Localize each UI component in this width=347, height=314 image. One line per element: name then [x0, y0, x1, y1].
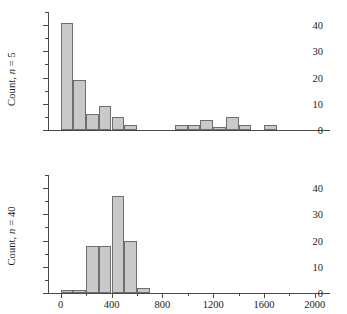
histogram-bar	[124, 125, 137, 130]
histogram-bar	[73, 290, 86, 293]
y-axis-label-bottom-prefix: Count,	[6, 233, 17, 265]
histogram-bar	[112, 196, 125, 293]
histogram-bar	[175, 125, 188, 130]
histogram-bar	[188, 125, 201, 130]
x-tick-major	[61, 293, 62, 298]
histogram-figure: Count, n = 5 010203040 Count, n = 40 010…	[0, 0, 347, 314]
x-tick-minor	[239, 293, 240, 296]
y-tick-label: 10	[313, 98, 324, 109]
y-axis-label-bottom: Count, n = 40	[6, 181, 17, 291]
y-axis-label-top-italic: n	[6, 68, 17, 73]
y-tick-label: 20	[313, 235, 324, 246]
y-tick-major	[43, 267, 48, 268]
y-tick-label: 0	[318, 288, 323, 299]
x-tick-minor	[86, 293, 87, 296]
x-tick-major	[162, 293, 163, 298]
y-tick-major	[43, 241, 48, 242]
histogram-bar	[200, 120, 213, 130]
x-tick-major	[213, 293, 214, 298]
plot-area-top: 010203040	[48, 12, 330, 130]
y-tick-major	[43, 25, 48, 26]
y-tick-minor	[45, 38, 48, 39]
plot-area-bottom: 0102030400400800120016002000	[48, 175, 330, 293]
histogram-bar	[61, 290, 74, 293]
y-axis-line	[48, 175, 49, 293]
y-tick-minor	[45, 91, 48, 92]
y-tick-major	[43, 130, 48, 131]
y-tick-major	[43, 78, 48, 79]
y-tick-label: 10	[313, 261, 324, 272]
histogram-bar	[213, 127, 226, 130]
x-tick-minor	[137, 293, 138, 296]
histogram-bar	[99, 246, 112, 293]
y-tick-minor	[45, 64, 48, 65]
y-tick-major	[43, 51, 48, 52]
y-tick-label: 40	[313, 20, 324, 31]
histogram-bar	[264, 125, 277, 130]
y-tick-label: 30	[313, 209, 324, 220]
x-tick-major	[315, 293, 316, 298]
panel-top: Count, n = 5 010203040	[0, 0, 347, 157]
histogram-bar	[124, 241, 137, 293]
y-tick-label: 0	[318, 125, 323, 136]
y-axis-label-top-prefix: Count,	[6, 74, 17, 106]
x-tick-label: 1600	[253, 299, 274, 310]
x-tick-minor	[289, 293, 290, 296]
y-axis-label-top-suffix: = 5	[6, 52, 17, 69]
x-tick-major	[264, 293, 265, 298]
y-tick-minor	[45, 280, 48, 281]
y-tick-label: 30	[313, 46, 324, 57]
y-axis-line	[48, 12, 49, 130]
histogram-bar	[61, 23, 74, 131]
histogram-bar	[86, 114, 99, 130]
x-tick-major	[112, 293, 113, 298]
x-tick-label: 1200	[203, 299, 224, 310]
histogram-bar	[112, 117, 125, 130]
histogram-bar	[137, 288, 150, 293]
histogram-bar	[226, 117, 239, 130]
y-axis-label-bottom-suffix: = 40	[6, 206, 17, 228]
y-tick-minor	[45, 175, 48, 176]
y-tick-minor	[45, 254, 48, 255]
y-tick-minor	[45, 117, 48, 118]
histogram-bar	[86, 246, 99, 293]
y-tick-minor	[45, 227, 48, 228]
histogram-bar	[239, 125, 252, 130]
y-axis-label-top: Count, n = 5	[6, 24, 17, 134]
y-tick-major	[43, 214, 48, 215]
x-tick-label: 800	[154, 299, 170, 310]
y-tick-minor	[45, 201, 48, 202]
y-tick-label: 20	[313, 72, 324, 83]
x-tick-minor	[188, 293, 189, 296]
histogram-bar	[73, 80, 86, 130]
histogram-bar	[99, 106, 112, 130]
y-tick-minor	[45, 12, 48, 13]
y-tick-major	[43, 188, 48, 189]
panel-bottom: Count, n = 40 01020304004008001200160020…	[0, 157, 347, 314]
x-axis-line	[48, 130, 330, 131]
x-tick-label: 0	[58, 299, 63, 310]
x-axis-line	[48, 293, 330, 294]
y-tick-major	[43, 293, 48, 294]
y-tick-label: 40	[313, 183, 324, 194]
x-tick-label: 400	[104, 299, 120, 310]
x-tick-label: 2000	[304, 299, 325, 310]
y-tick-major	[43, 104, 48, 105]
